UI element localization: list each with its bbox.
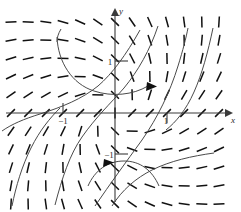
axis-labels: y x −1 1 1 −1: [58, 6, 235, 160]
slope-dash: [179, 203, 190, 204]
slope-dash: [23, 57, 34, 59]
slope-dash: [201, 53, 203, 64]
slope-dash: [130, 54, 135, 64]
slope-dash: [41, 92, 51, 98]
slope-dash: [78, 199, 82, 209]
slope-dash: [214, 185, 225, 187]
x-axis-label: x: [230, 115, 235, 125]
slope-dash: [201, 35, 202, 46]
slope-dash: [78, 181, 82, 191]
slope-dash: [215, 128, 224, 134]
y-axis-label: y: [118, 6, 123, 16]
slope-dash: [11, 199, 12, 210]
slope-dash: [162, 203, 173, 206]
slope-dash: [9, 144, 14, 154]
left-separatrix-curve: [2, 30, 140, 131]
slope-dash: [149, 53, 151, 64]
right-steep-curve: [95, 28, 188, 206]
slope-dash: [179, 167, 190, 168]
slope-dash: [45, 162, 46, 173]
slope-dash: [127, 165, 137, 170]
slope-dash: [183, 71, 186, 82]
slope-dash: [28, 180, 29, 191]
slope-dash: [9, 162, 12, 173]
x-tick-label-positive-one: 1: [164, 116, 169, 126]
slope-dash: [24, 92, 33, 98]
y-tick-label-negative-one: −1: [104, 150, 114, 160]
slope-dash: [58, 21, 69, 24]
slope-dash: [79, 162, 81, 173]
slope-dash: [166, 17, 169, 28]
slope-dash: [166, 35, 168, 46]
slope-dash: [58, 39, 69, 41]
slope-dash: [75, 38, 85, 42]
slope-dash: [217, 53, 220, 64]
slope-dash: [7, 92, 16, 98]
slope-dash: [162, 148, 173, 150]
slope-dash: [93, 37, 102, 43]
slope-dash: [40, 58, 51, 59]
slope-dash: [61, 126, 66, 136]
y-axis-arrow: [111, 8, 119, 16]
slope-dash: [214, 166, 225, 169]
slope-dash: [75, 20, 85, 24]
x-tick-label-negative-one: −1: [58, 116, 68, 126]
slope-dash: [25, 127, 31, 136]
slope-dash: [214, 147, 224, 152]
slope-dash: [75, 57, 86, 59]
slope-dash: [183, 17, 184, 28]
slope-dash: [8, 127, 14, 136]
slope-dash: [93, 56, 103, 61]
center-rising-curve: [55, 26, 158, 205]
slope-dash: [217, 72, 222, 82]
slope-dash: [79, 126, 82, 137]
slope-dash: [184, 53, 185, 64]
slope-dash: [93, 19, 102, 25]
y-tick-label-positive-one: 1: [108, 57, 113, 67]
slope-dash: [214, 204, 225, 205]
right-outer-curve: [166, 28, 213, 130]
slope-dash: [6, 57, 17, 60]
slope-dash: [6, 39, 17, 41]
slope-dash: [216, 90, 222, 99]
slope-dash: [58, 92, 68, 97]
slope-dash: [43, 126, 49, 136]
slope-dash: [44, 144, 47, 155]
plot-canvas: y x −1 1 1 −1: [0, 0, 241, 212]
slope-dash: [181, 90, 187, 100]
slope-dash: [166, 71, 168, 82]
slope-dash: [218, 35, 220, 46]
slope-dash: [148, 90, 151, 101]
slope-dash: [145, 130, 156, 133]
slope-dash: [62, 180, 64, 191]
slope-dash: [45, 199, 46, 210]
axes: [6, 8, 233, 202]
slope-dash: [197, 128, 206, 134]
slope-dash: [95, 199, 101, 208]
slope-dash: [219, 17, 220, 28]
slope-dash: [148, 17, 152, 27]
slope-dash: [145, 184, 155, 188]
slope-dash: [6, 22, 17, 23]
slope-dash: [196, 166, 207, 168]
slope-dash: [23, 40, 34, 41]
slope-dash: [199, 90, 205, 99]
slope-dash: [196, 185, 207, 186]
slope-dash: [179, 148, 190, 151]
slope-dash: [93, 75, 103, 79]
slope-dash: [62, 199, 65, 210]
direction-field-figure: y x −1 1 1 −1: [0, 0, 241, 212]
slope-dash: [27, 162, 29, 173]
slope-dash: [41, 75, 52, 78]
slope-dash: [62, 144, 64, 155]
slope-dash: [58, 76, 69, 78]
slope-dash: [23, 75, 33, 79]
slope-dash: [10, 180, 12, 191]
slope-dash: [129, 17, 135, 26]
slope-dash: [179, 128, 189, 134]
slope-dash: [145, 202, 155, 206]
slope-dash: [6, 74, 16, 79]
slope-dash: [197, 147, 207, 151]
slope-dash: [95, 181, 101, 190]
slope-dash: [40, 21, 51, 22]
